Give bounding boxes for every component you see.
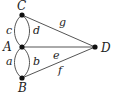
edge-c (15, 15, 23, 47)
edge-label-g: g (59, 16, 66, 29)
graph-diagram: C A B D c d a b g e f (0, 0, 117, 96)
edge-a (15, 47, 23, 78)
node-label-a: A (2, 40, 12, 54)
node-b (19, 75, 24, 80)
node-a (19, 44, 24, 49)
edge-label-c: c (6, 24, 12, 37)
node-label-b: B (17, 81, 27, 95)
edge-label-b: b (33, 55, 40, 68)
edge-label-e: e (53, 49, 60, 62)
edge-label-f: f (57, 64, 64, 77)
edge-label-a: a (6, 55, 13, 68)
edge-d (22, 15, 30, 47)
edge-label-d: d (33, 24, 40, 37)
node-label-d: D (100, 41, 111, 55)
edge-b (22, 47, 30, 78)
node-d (92, 44, 97, 49)
node-label-c: C (17, 0, 26, 13)
node-c (19, 12, 24, 17)
